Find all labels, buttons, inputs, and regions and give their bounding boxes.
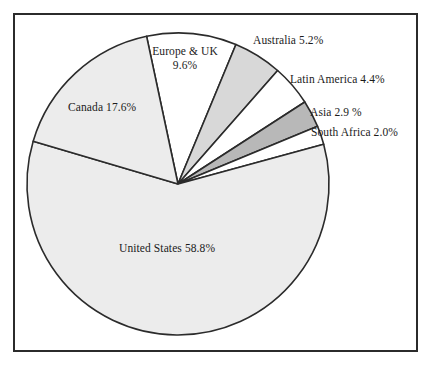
pie-label-latin-america-line1: Latin America 4.4% — [290, 73, 385, 87]
pie-label-united-states-line1: United States 58.8% — [119, 242, 215, 256]
pie-label-europe-uk: Europe & UK 9.6% — [142, 45, 228, 72]
pie-label-canada-line1: Canada 17.6% — [68, 101, 136, 115]
pie-label-asia: Asia 2.9 % — [310, 106, 362, 120]
pie-label-asia-line1: Asia 2.9 % — [310, 106, 362, 120]
pie-label-europe-uk-line2: 9.6% — [142, 59, 228, 73]
pie-label-australia: Australia 5.2% — [253, 34, 323, 48]
pie-label-canada: Canada 17.6% — [68, 101, 136, 115]
pie-label-united-states: United States 58.8% — [119, 242, 215, 256]
pie-label-south-africa: South Africa 2.0% — [311, 126, 398, 140]
pie-label-australia-line1: Australia 5.2% — [253, 34, 323, 48]
pie-slice-group — [27, 33, 329, 335]
pie-label-south-africa-line1: South Africa 2.0% — [311, 126, 398, 140]
pie-label-latin-america: Latin America 4.4% — [290, 73, 385, 87]
pie-label-europe-uk-line1: Europe & UK — [142, 45, 228, 59]
